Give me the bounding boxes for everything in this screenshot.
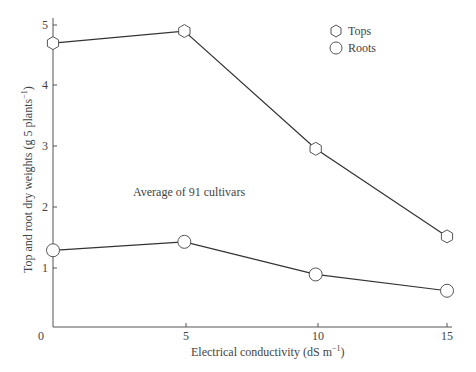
y-tick-label: 4	[42, 78, 48, 92]
legend-label-tops: Tops	[348, 24, 371, 38]
series-layer	[47, 25, 454, 298]
x-axis-label: Electrical conductivity (dS m−1)	[191, 344, 344, 359]
hexagon-marker	[441, 230, 452, 243]
circle-marker	[309, 268, 322, 281]
hexagon-marker	[310, 142, 321, 155]
hexagon-marker	[179, 25, 190, 38]
series-line-roots	[53, 242, 447, 291]
hexagon-icon	[331, 25, 341, 37]
circle-marker	[47, 244, 60, 257]
annotation-text: Average of 91 cultivars	[133, 185, 245, 199]
y-axis-label: Top and root dry weights (g 5 plants−1)	[20, 86, 35, 273]
series-line-tops	[53, 31, 447, 236]
legend-label-roots: Roots	[348, 41, 376, 55]
circle-marker	[441, 284, 454, 297]
x-tick-label: 0	[38, 329, 44, 343]
y-tick-label: 3	[42, 139, 48, 153]
x-tick-label: 10	[312, 329, 324, 343]
line-chart: 5 4 3 2 1 0 5 10 15 Electrical conductiv…	[0, 0, 476, 372]
x-tick-label: 5	[183, 329, 189, 343]
hexagon-marker	[47, 37, 58, 50]
x-ticks	[186, 323, 447, 327]
x-tick-label: 15	[441, 329, 453, 343]
y-ticks	[53, 25, 57, 268]
y-tick-label: 5	[42, 18, 48, 32]
legend: Tops Roots	[330, 24, 376, 55]
y-tick-label: 1	[42, 261, 48, 275]
circle-marker	[178, 235, 191, 248]
y-tick-label: 2	[42, 200, 48, 214]
circle-icon	[330, 42, 342, 54]
